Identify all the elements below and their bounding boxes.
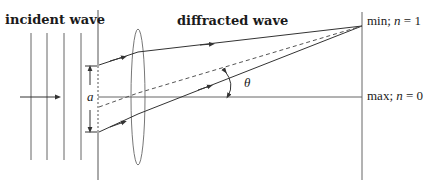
incident-wave-label: incident wave [5,12,105,27]
upper-ray [99,26,362,65]
max-label: max; n = 0 [367,88,423,103]
angle-arc [225,71,231,96]
lower-ray [99,26,362,132]
center-ray-dashed [99,26,362,107]
single-slit-diffraction-diagram: incident wave diffracted wave a θ min; n… [0,0,443,187]
min-label: min; n = 1 [367,13,421,28]
diffracted-wave-label: diffracted wave [177,13,288,28]
slit-width-label: a [87,89,94,104]
theta-label: θ [244,75,251,90]
